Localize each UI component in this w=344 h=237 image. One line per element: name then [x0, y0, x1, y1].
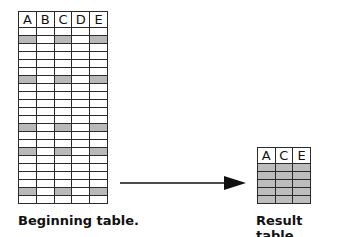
table-cell — [19, 116, 37, 124]
table-cell — [90, 148, 108, 156]
table-cell — [72, 92, 90, 100]
result-table: A C E — [257, 147, 311, 204]
table-cell — [275, 196, 293, 204]
table-cell — [19, 28, 37, 36]
table-cell — [36, 68, 54, 76]
table-cell — [72, 108, 90, 116]
table-cell — [72, 140, 90, 148]
table-cell — [293, 164, 311, 172]
table-row — [19, 92, 108, 100]
table-cell — [293, 172, 311, 180]
table-cell — [54, 60, 72, 68]
table-cell — [36, 148, 54, 156]
table-cell — [19, 148, 37, 156]
table-cell — [54, 36, 72, 44]
table-row — [19, 36, 108, 44]
table-cell — [19, 140, 37, 148]
table-cell — [72, 52, 90, 60]
table-row — [19, 60, 108, 68]
table-cell — [54, 156, 72, 164]
table-cell — [275, 180, 293, 188]
table-cell — [72, 180, 90, 188]
table-cell — [54, 148, 72, 156]
table-cell — [54, 84, 72, 92]
table-cell — [19, 52, 37, 60]
table-cell — [19, 188, 37, 196]
table-cell — [36, 196, 54, 204]
table-cell — [258, 196, 276, 204]
table-row — [19, 156, 108, 164]
table-cell — [72, 76, 90, 84]
result-table-header-row: A C E — [258, 148, 311, 164]
table-cell — [19, 156, 37, 164]
table-row — [19, 44, 108, 52]
table-cell — [54, 44, 72, 52]
table-cell — [36, 52, 54, 60]
table-row — [19, 116, 108, 124]
table-cell — [72, 44, 90, 52]
table-cell — [293, 196, 311, 204]
table-row — [19, 140, 108, 148]
table-cell — [275, 164, 293, 172]
right-arrow-icon — [118, 175, 248, 191]
table-cell — [90, 108, 108, 116]
table-row — [258, 188, 311, 196]
table-cell — [90, 156, 108, 164]
table-cell — [72, 84, 90, 92]
table-cell — [258, 180, 276, 188]
table-row — [19, 196, 108, 204]
table-row — [19, 68, 108, 76]
table-cell — [90, 124, 108, 132]
table-cell — [54, 52, 72, 60]
result-table-caption: Result table. — [256, 213, 344, 237]
table-cell — [90, 196, 108, 204]
table-cell — [275, 172, 293, 180]
table-cell — [72, 124, 90, 132]
table-cell — [258, 164, 276, 172]
table-cell — [36, 188, 54, 196]
table-cell — [36, 76, 54, 84]
table-cell — [90, 76, 108, 84]
table-cell — [72, 132, 90, 140]
column-header-c: C — [275, 148, 293, 164]
table-cell — [19, 44, 37, 52]
table-row — [19, 148, 108, 156]
column-header-e: E — [293, 148, 311, 164]
table-cell — [54, 100, 72, 108]
table-cell — [90, 84, 108, 92]
table-cell — [90, 180, 108, 188]
table-cell — [90, 36, 108, 44]
column-header-c: C — [54, 12, 72, 28]
table-cell — [19, 180, 37, 188]
column-header-d: D — [72, 12, 90, 28]
table-row — [258, 172, 311, 180]
table-cell — [72, 172, 90, 180]
table-row — [19, 188, 108, 196]
table-cell — [90, 68, 108, 76]
table-row — [19, 76, 108, 84]
table-row — [19, 52, 108, 60]
table-cell — [90, 60, 108, 68]
column-header-e: E — [90, 12, 108, 28]
table-cell — [19, 124, 37, 132]
table-cell — [90, 92, 108, 100]
table-cell — [54, 196, 72, 204]
table-cell — [36, 140, 54, 148]
table-cell — [90, 28, 108, 36]
table-cell — [36, 60, 54, 68]
table-cell — [293, 188, 311, 196]
table-cell — [36, 84, 54, 92]
table-cell — [54, 68, 72, 76]
result-table-body — [258, 164, 311, 204]
table-cell — [19, 76, 37, 84]
table-cell — [36, 164, 54, 172]
table-cell — [19, 100, 37, 108]
table-row — [19, 180, 108, 188]
table-cell — [19, 84, 37, 92]
table-cell — [36, 92, 54, 100]
table-cell — [258, 188, 276, 196]
table-cell — [293, 180, 311, 188]
table-cell — [36, 100, 54, 108]
table-cell — [54, 76, 72, 84]
table-cell — [90, 164, 108, 172]
